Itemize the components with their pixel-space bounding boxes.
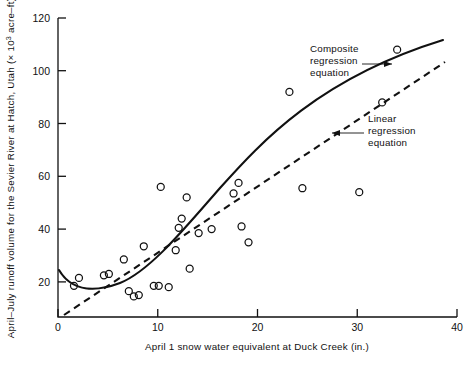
linear-regression-line	[64, 62, 445, 315]
data-point	[178, 215, 185, 222]
data-point	[135, 292, 142, 299]
data-point	[172, 247, 179, 254]
xtick-label-30: 30	[351, 321, 363, 333]
data-point	[100, 272, 107, 279]
linear-annotation-line3: equation	[368, 137, 407, 148]
composite-annotation-line3: equation	[310, 67, 349, 78]
ytick-labels: 120 100 80 60 40 20	[32, 12, 50, 288]
data-point	[165, 284, 172, 291]
data-point	[299, 185, 306, 192]
data-point	[230, 190, 237, 197]
xtick-labels: 0 10 20 30 40	[55, 321, 463, 333]
data-point	[195, 230, 202, 237]
axis-lines	[58, 18, 457, 317]
xtick-label-10: 10	[152, 321, 164, 333]
xtick-label-40: 40	[451, 321, 463, 333]
data-points-layer	[70, 46, 400, 300]
ytick-label-80: 80	[38, 118, 50, 130]
data-point	[175, 224, 182, 231]
data-point	[105, 270, 112, 277]
data-point	[155, 282, 162, 289]
data-point	[120, 256, 127, 263]
data-point	[238, 223, 245, 230]
data-point	[140, 243, 147, 250]
data-point	[286, 88, 293, 95]
data-point	[208, 226, 215, 233]
x-axis-title: April 1 snow water equivalent at Duck Cr…	[145, 341, 369, 352]
data-point	[75, 274, 82, 281]
composite-annotation-line1: Composite	[310, 43, 359, 54]
xtick-label-20: 20	[252, 321, 264, 333]
data-point	[356, 189, 363, 196]
axis-frame	[58, 18, 457, 317]
ytick-label-60: 60	[38, 170, 50, 182]
y-axis-title-post: acre–ft)	[5, 0, 16, 36]
composite-annotation-line2: regression	[310, 55, 358, 66]
ytick-label-20: 20	[38, 276, 50, 288]
ytick-label-100: 100	[32, 65, 50, 77]
data-point	[186, 265, 193, 272]
data-point	[157, 183, 164, 190]
ytick-label-40: 40	[38, 223, 50, 235]
data-point	[183, 194, 190, 201]
linear-annotation: Linear regression equation	[332, 113, 416, 148]
composite-arrowhead-icon	[384, 61, 392, 67]
linear-annotation-line2: regression	[368, 125, 416, 136]
data-point	[245, 239, 252, 246]
data-point	[130, 293, 137, 300]
plot-canvas: 120 100 80 60 40 20 0 10 20 30 40 April …	[0, 0, 473, 365]
ytick-label-120: 120	[32, 12, 50, 24]
data-point	[394, 46, 401, 53]
scatter-plot-figure: 120 100 80 60 40 20 0 10 20 30 40 April …	[0, 0, 473, 365]
y-axis-title-pre: April–July runoff volume for the Sevier …	[5, 40, 16, 338]
data-point	[235, 179, 242, 186]
xtick-label-0: 0	[55, 321, 61, 333]
composite-annotation: Composite regression equation	[310, 43, 392, 78]
y-axis-title: April–July runoff volume for the Sevier …	[4, 0, 16, 338]
linear-annotation-line1: Linear	[368, 113, 397, 124]
composite-regression-curve	[59, 40, 443, 289]
